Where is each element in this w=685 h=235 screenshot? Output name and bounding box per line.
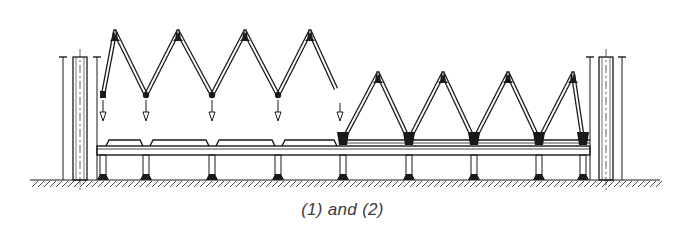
folded-truss-member: [211, 31, 244, 94]
ground-hatch: [326, 181, 332, 187]
ground-hatch: [554, 181, 560, 187]
post: [536, 155, 542, 175]
ground-hatch: [104, 181, 110, 187]
ground-hatch: [86, 181, 92, 187]
folded-truss-member: [244, 33, 277, 96]
ground-hatch: [446, 181, 452, 187]
ground-hatch: [44, 181, 50, 187]
placed-truss-member: [507, 75, 538, 141]
ground-hatch: [638, 181, 644, 187]
post-base: [337, 174, 349, 180]
ground-hatch: [110, 181, 116, 187]
ground-hatch: [584, 181, 590, 187]
ground-hatch: [464, 181, 470, 187]
down-arrow-head: [337, 112, 343, 121]
ground-hatch: [140, 181, 146, 187]
bearing-pad: [282, 140, 337, 146]
folded-truss-end: [100, 91, 106, 98]
bearing-pad: [106, 140, 143, 146]
ground-hatch: [32, 181, 38, 187]
placed-truss-member: [342, 73, 377, 139]
ground-hatch: [242, 181, 248, 187]
placed-truss-member: [509, 73, 540, 139]
bearing-pad: [216, 140, 275, 146]
ground-hatch: [314, 181, 320, 187]
ground-hatch: [542, 181, 548, 187]
ground-hatch: [338, 181, 344, 187]
down-arrow-head: [275, 112, 281, 121]
truss-support-node: [468, 132, 480, 145]
bearing-pad: [150, 140, 209, 146]
ground-hatch: [68, 181, 74, 187]
down-arrow-head: [209, 112, 215, 121]
ground-hatch: [158, 181, 164, 187]
ground-hatch: [626, 181, 632, 187]
placed-truss-member: [377, 75, 408, 141]
ground-hatch: [122, 181, 128, 187]
ground-hatch: [458, 181, 464, 187]
ground-hatch: [452, 181, 458, 187]
ground-hatch: [596, 181, 602, 187]
ground-hatch: [524, 181, 530, 187]
folded-truss-member: [246, 31, 279, 94]
ground-hatch: [644, 181, 650, 187]
folded-truss-member: [311, 31, 337, 88]
ground-hatch: [50, 181, 56, 187]
placed-truss-member: [540, 75, 574, 141]
ground-hatch: [530, 181, 536, 187]
placed-truss-member: [408, 73, 442, 139]
ground-hatch: [392, 181, 398, 187]
ground-hatch: [308, 181, 314, 187]
ground-hatch: [206, 181, 212, 187]
ground-hatch: [272, 181, 278, 187]
post: [100, 155, 106, 175]
ground-hatch: [488, 181, 494, 187]
ground-hatch: [656, 181, 662, 187]
ground-hatch: [494, 181, 500, 187]
ground-hatch: [368, 181, 374, 187]
ground-hatch: [80, 181, 86, 187]
ground-hatch: [146, 181, 152, 187]
ground-hatch: [194, 181, 200, 187]
placed-truss-member: [473, 73, 507, 139]
ground-hatch: [248, 181, 254, 187]
folded-truss-node: [209, 92, 215, 98]
ground-hatch: [476, 181, 482, 187]
ground-hatch: [224, 181, 230, 187]
folded-truss-member: [213, 33, 246, 96]
ground-hatch: [650, 181, 656, 187]
ground-hatch: [470, 181, 476, 187]
ground-hatch: [176, 181, 182, 187]
placed-truss-member: [475, 75, 509, 141]
down-arrow-head: [143, 112, 149, 121]
down-arrow-head: [100, 112, 106, 121]
ground-hatch: [92, 181, 98, 187]
post-base: [468, 174, 480, 180]
ground-hatch: [218, 181, 224, 187]
beam: [97, 146, 590, 155]
folded-truss-member: [145, 31, 177, 94]
placed-truss-member: [379, 73, 410, 139]
ground-hatch: [56, 181, 62, 187]
ground-hatch: [260, 181, 266, 187]
ground-hatch: [200, 181, 206, 187]
folded-truss-member: [277, 31, 309, 94]
ground-hatch: [266, 181, 272, 187]
ground-hatch: [332, 181, 338, 187]
post-base: [206, 174, 218, 180]
ground-hatch: [302, 181, 308, 187]
post: [275, 155, 281, 175]
folded-truss-node: [143, 92, 149, 98]
ground-hatch: [284, 181, 290, 187]
ground-hatch: [404, 181, 410, 187]
ground-hatch: [344, 181, 350, 187]
ground-hatch: [614, 181, 620, 187]
ground-hatch: [482, 181, 488, 187]
ground-hatch: [506, 181, 512, 187]
folded-truss-member: [116, 31, 147, 94]
ground-hatch: [536, 181, 542, 187]
post-base: [403, 174, 415, 180]
post-base: [140, 174, 152, 180]
ground-hatch: [356, 181, 362, 187]
post-base: [577, 174, 589, 180]
